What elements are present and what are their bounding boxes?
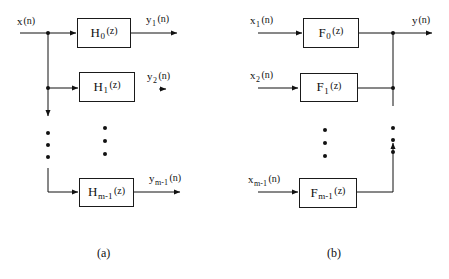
block-f0[interactable]: F0(z) (303, 18, 359, 48)
ellipsis-dot (391, 126, 395, 130)
block-fm1[interactable]: Fm-1(z) (299, 178, 357, 208)
junction-dot-b-top (391, 31, 395, 35)
block-hm1-label: Hm-1(z) (88, 184, 125, 201)
ellipsis-dot (46, 143, 50, 147)
label-input-x2: x2(n) (250, 70, 273, 84)
block-h0-label: H0(z) (91, 25, 118, 42)
block-f1-label: F1(z) (317, 79, 342, 96)
ellipsis-dot (46, 155, 50, 159)
label-output-y1: y1(n) (146, 14, 169, 28)
caption-panel-a: (a) (97, 246, 110, 261)
label-input-xm1: xm-1(n) (248, 174, 280, 188)
label-input-x1: x1(n) (250, 15, 273, 29)
junction-dot-a-h1 (46, 86, 50, 90)
wire-layer (0, 0, 449, 279)
wire-a-bus-lower (48, 168, 78, 192)
ellipsis-dot (323, 128, 327, 132)
ellipsis-dot (103, 139, 107, 143)
ellipsis-dot (46, 131, 50, 135)
block-hm1[interactable]: Hm-1(z) (79, 178, 134, 207)
block-h1[interactable]: H1(z) (79, 72, 135, 102)
figure-canvas: H0(z) H1(z) Hm-1(z) x(n) y1(n) y2(n) ym-… (0, 0, 449, 279)
wire-b-fm1-out (357, 143, 393, 192)
block-f1[interactable]: F1(z) (300, 73, 358, 102)
ellipsis-dot (103, 126, 107, 130)
block-fm1-label: Fm-1(z) (311, 185, 346, 202)
ellipsis-dot (391, 150, 395, 154)
ellipsis-dot (323, 141, 327, 145)
block-h0[interactable]: H0(z) (77, 18, 131, 48)
ellipsis-dot (323, 154, 327, 158)
label-output-y2: y2(n) (147, 71, 170, 85)
junction-dot-b-f1 (391, 86, 395, 90)
label-output-yn: y(n) (412, 15, 430, 26)
caption-panel-b: (b) (327, 246, 341, 261)
junction-dot-a-top (46, 31, 50, 35)
label-input-xn: x(n) (17, 16, 35, 27)
ellipsis-dot (103, 152, 107, 156)
label-output-ym1: ym-1(n) (149, 173, 181, 187)
block-h1-label: H1(z) (94, 79, 121, 96)
ellipsis-dot (391, 138, 395, 142)
block-f0-label: F0(z) (319, 25, 344, 42)
